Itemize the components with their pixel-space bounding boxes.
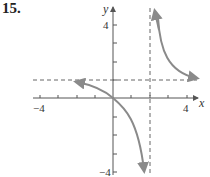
left-branch-curve-lower [113,98,144,170]
right-branch-curve [158,18,196,78]
y-axis-label: y [102,2,109,16]
x-axis-label: x [198,96,205,110]
y-max-label: 4 [103,19,109,31]
graph: −4 4 x y 4 −4 [0,0,210,177]
x-max-label: 4 [183,102,189,114]
y-min-label: −4 [99,166,111,177]
x-min-label: −4 [33,102,45,114]
